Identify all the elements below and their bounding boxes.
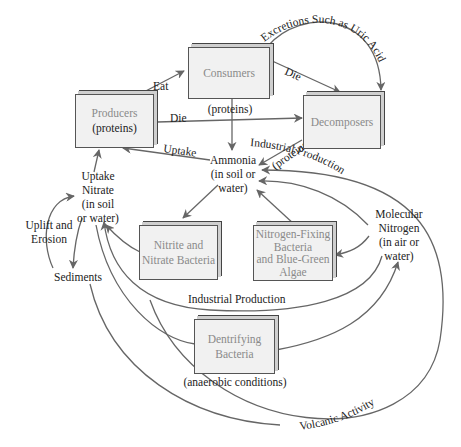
- node-sediments: Sediments: [52, 270, 104, 284]
- uplift-line2: Erosion: [22, 232, 76, 246]
- node-decomposers: Decomposers: [303, 95, 381, 149]
- nitrate-line3: or water): [70, 211, 126, 225]
- nitrate-uptake-label: Uptake: [70, 169, 126, 183]
- edge-label-uptake-ammonia: Uptake: [163, 142, 198, 159]
- denitrifying-line2: Bacteria: [215, 347, 253, 362]
- node-nitrogen-fixing-bacteria: Nitrogen-Fixing Bacteria and Blue-Green …: [253, 225, 333, 281]
- edge-label-volcanic: Volcanic Activity: [299, 395, 377, 432]
- svg-text:Volcanic Activity: Volcanic Activity: [299, 395, 377, 432]
- ammonia-line3: water): [204, 181, 262, 195]
- node-denitrifying-sublabel: (anaerobic conditions): [180, 375, 290, 389]
- molecular-nitrogen-line2: Nitrogen: [370, 221, 428, 235]
- edge-label-industrial-lower: Industrial Production: [188, 293, 286, 305]
- nitrogen-fixing-line3: and Blue-Green: [256, 253, 329, 266]
- nitrate-line1: Nitrate: [70, 183, 126, 197]
- edge-label-eat: Eat: [153, 80, 169, 92]
- node-consumers: Consumers: [188, 47, 270, 99]
- nitrite-bacteria-line1: Nitrite and: [154, 238, 204, 253]
- nitrogen-cycle-diagram: Excretions Such as Uric Acid Die Eat Die…: [0, 0, 461, 447]
- edge-label-excretions: Excretions Such as Uric Acid: [258, 13, 388, 64]
- node-nitrite-nitrate-bacteria: Nitrite and Nitrate Bacteria: [139, 225, 218, 280]
- svg-text:Excretions Such as Uric Acid: Excretions Such as Uric Acid: [258, 13, 388, 64]
- ammonia-line2: (in soil or: [204, 167, 262, 181]
- node-consumers-label: Consumers: [203, 66, 255, 81]
- uplift-line1: Uplift and: [22, 218, 76, 232]
- nitrogen-fixing-line4: Algae: [279, 266, 306, 279]
- node-decomposers-label: Decomposers: [311, 115, 374, 130]
- edge-label-uplift-erosion: Uplift and Erosion: [22, 218, 76, 246]
- node-producers-sublabel: (proteins): [92, 121, 137, 136]
- edge-label-die-producers: Die: [170, 112, 187, 124]
- nitrogen-fixing-line1: Nitrogen-Fixing: [256, 228, 331, 241]
- molecular-nitrogen-line3: (in air or: [370, 235, 428, 249]
- node-denitrifying-bacteria: Dentrifying Bacteria: [194, 319, 275, 374]
- node-consumers-sublabel: (proteins): [200, 102, 260, 116]
- molecular-nitrogen-line4: water): [370, 249, 428, 263]
- ammonia-line1: Ammonia: [204, 153, 262, 167]
- denitrifying-line1: Dentrifying: [208, 332, 262, 347]
- nitrate-line2: (in soil: [70, 197, 126, 211]
- nitrogen-fixing-line2: Bacteria: [274, 241, 312, 254]
- node-molecular-nitrogen: Molecular Nitrogen (in air or water): [370, 207, 428, 263]
- node-nitrate: Uptake Nitrate (in soil or water): [70, 169, 126, 225]
- node-producers: Producers (proteins): [75, 94, 154, 148]
- molecular-nitrogen-line1: Molecular: [370, 207, 428, 221]
- node-producers-label: Producers: [92, 106, 138, 121]
- node-ammonia: Ammonia (in soil or water): [204, 153, 262, 195]
- edge-label-die-consumers: Die: [283, 65, 303, 83]
- nitrite-bacteria-line2: Nitrate Bacteria: [142, 253, 215, 268]
